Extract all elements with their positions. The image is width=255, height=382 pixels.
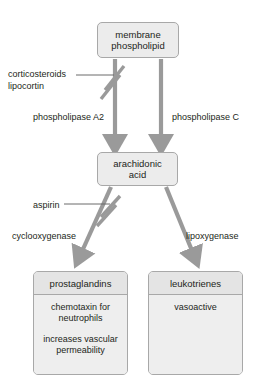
inhibition-slash-corticosteroids [101, 66, 124, 99]
node-prostaglandins-body: chemotaxin for neutrophils increases vas… [34, 295, 127, 374]
node-prostaglandins-entry-1: chemotaxin for neutrophils [39, 302, 122, 325]
arrow-lipoxygenase [166, 187, 195, 258]
node-prostaglandins: prostaglandins chemotaxin for neutrophil… [33, 271, 128, 375]
node-prostaglandins-entry-2: increases vascular permeability [39, 334, 122, 357]
node-arachidonic-acid: arachidonic acid [97, 152, 178, 186]
inhibitor-label-aspirin: aspirin [33, 199, 60, 211]
arrow-cyclooxygenase [79, 187, 111, 258]
inhibitor-label-lipocortin-line-2: lipocortin [8, 80, 66, 92]
enzyme-label-phospholipase-c: phospholipase C [172, 111, 239, 123]
enzyme-label-phospholipase-a2: phospholipase A2 [33, 111, 104, 123]
node-leukotrienes: leukotrienes vasoactive [148, 271, 243, 375]
node-arachidonic-acid-line-2: acid [129, 169, 146, 180]
node-membrane-phospholipid-line-1: membrane [115, 29, 160, 40]
arachidonic-acid-pathway-diagram: membrane phospholipid arachidonic acid p… [0, 0, 255, 382]
node-arachidonic-acid-line-1: arachidonic [113, 158, 162, 169]
node-membrane-phospholipid-line-2: phospholipid [111, 40, 164, 51]
inhibitor-label-corticosteroids: corticosteroids lipocortin [8, 68, 66, 92]
node-prostaglandins-header: prostaglandins [34, 272, 127, 295]
node-membrane-phospholipid: membrane phospholipid [97, 22, 179, 58]
inhibitor-label-corticosteroids-line-1: corticosteroids [8, 68, 66, 80]
enzyme-label-cyclooxygenase: cyclooxygenase [12, 230, 76, 242]
node-leukotrienes-entry-1: vasoactive [174, 302, 217, 313]
enzyme-label-lipoxygenase: lipoxygenase [186, 230, 239, 242]
node-leukotrienes-header: leukotrienes [149, 272, 242, 295]
node-leukotrienes-body: vasoactive [149, 295, 242, 374]
